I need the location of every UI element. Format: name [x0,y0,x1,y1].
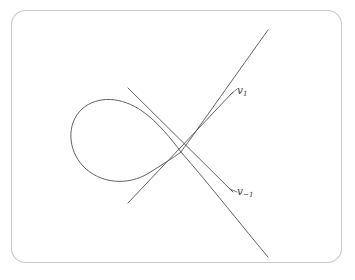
figure-root: v1 v−1 [0,0,355,280]
label-v-minus-1: v−1 [237,186,254,198]
figure-canvas [0,0,355,280]
label-v1-subscript: 1 [243,89,248,98]
label-v1: v1 [237,85,248,97]
label-v-minus-1-subscript: −1 [243,190,254,199]
